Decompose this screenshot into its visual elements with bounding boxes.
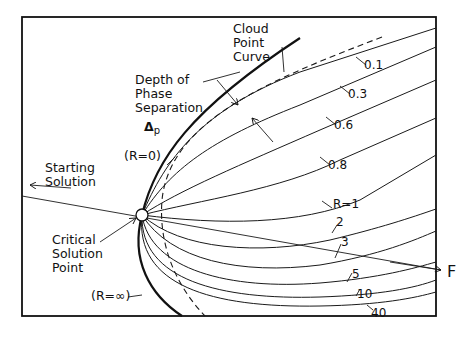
r-curves bbox=[142, 28, 436, 306]
starting-solution-label: Starting Solution bbox=[45, 160, 99, 189]
label-2: 2 bbox=[336, 215, 344, 229]
tick-r1 bbox=[322, 201, 332, 208]
label-0.8: 0.8 bbox=[328, 158, 347, 172]
critical-point-leader bbox=[100, 218, 136, 242]
label-3: 3 bbox=[341, 235, 349, 249]
f-axis-label: F bbox=[447, 262, 456, 281]
label-5: 5 bbox=[352, 267, 360, 281]
spinodal-dashed-curve bbox=[162, 37, 382, 316]
label-r1: R=1 bbox=[333, 197, 359, 211]
label-0.3: 0.3 bbox=[348, 87, 367, 101]
curve-r-2 bbox=[142, 209, 436, 248]
depth-leader bbox=[203, 72, 240, 82]
curve-r-0.1 bbox=[142, 28, 436, 215]
label-10: 10 bbox=[357, 287, 372, 301]
critical-point-label: Critical Solution Point bbox=[52, 232, 107, 275]
r-zero-label: (R=0) bbox=[124, 148, 161, 163]
depth-arrow-bottom bbox=[252, 118, 273, 142]
r-infinity-label: (R=∞) bbox=[91, 288, 130, 303]
curve-r-10 bbox=[142, 215, 436, 297]
cloud-point-curve bbox=[142, 38, 300, 215]
delta-symbol: Δp bbox=[144, 119, 160, 136]
critical-solution-point bbox=[136, 209, 148, 221]
label-40: 40 bbox=[371, 306, 386, 320]
label-0.1: 0.1 bbox=[364, 58, 383, 72]
depth-label: Depth of Phase Separation bbox=[135, 72, 203, 115]
r-infinity-curve bbox=[138, 215, 182, 316]
cloud-point-leader bbox=[282, 47, 284, 72]
r-zero-leader bbox=[167, 157, 175, 165]
phase-separation-diagram: Cloud Point Curve Depth of Phase Separat… bbox=[0, 0, 475, 337]
cloud-point-label: Cloud Point Curve bbox=[233, 21, 273, 64]
label-0.6: 0.6 bbox=[334, 118, 353, 132]
